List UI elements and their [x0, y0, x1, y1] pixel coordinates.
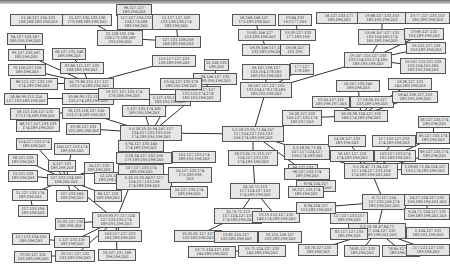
graph-node: 83,117,127,133 189,196,203 [330, 228, 368, 240]
graph-node: 5,5,18,35,71,84 107,117,124,127 156,174,… [284, 144, 330, 160]
graph-node: 19,121,127,133 153,189,196,203 [406, 42, 446, 54]
graph-node: 24,27,124,127,133 156,189,196,201,203 [404, 194, 450, 206]
graph-node: 117,125,127,133 174,189,196,203 [372, 135, 416, 147]
graph-node: 114,127,133,174 189,196,203 [16, 138, 52, 150]
graph-node: 18,78,127,133 189,196,203 [298, 244, 338, 256]
graph-node: 14,16,127,133 189,196,203 [328, 135, 366, 147]
graph-node: 18,113,118,127,130 133,174,189,196,203 [62, 107, 110, 119]
graph-node: 19,54,127,133,178 189,195,196,203 [160, 78, 202, 90]
graph-node: 19,117,127,133,174 178,188,196,203 [98, 88, 150, 100]
graph-node: 5,127,133,174,181 189,195,196,203 [122, 105, 166, 117]
graph-node: 101,127,133,174 189,195,196,203 [172, 151, 216, 163]
graph-node: 16,127,133,174 189,196,203 [288, 186, 324, 198]
graph-node: 19,56,107,127,133 133,154,165,174 185,18… [358, 29, 406, 45]
graph-node: 19,39,127,133 177,189,196 [280, 29, 316, 41]
graph-node: 19,71,124,127,133 143,189,196,203 [238, 245, 286, 257]
graph-node: 22,128,131,136 138,179,188,189 195,196,2… [97, 30, 143, 46]
graph-node: 19,69,127,133 153,189,196,203 [404, 28, 444, 40]
graph-node: 16,107,116,127 133,154,178,185 189,195,1… [242, 64, 290, 80]
graph-node: 103,127,133,174 183,189,196,203 [374, 150, 416, 162]
graph-node: 117,122,127,133 189,196,203 [406, 244, 450, 256]
graph-node: 117,127,130,133 134,174,188 189,196,203 [117, 14, 155, 30]
graph-node: 19,117,127,131 133,189,196,203 [55, 250, 95, 262]
graph-node: 5,94,127,133,140 174,189,196,203 [118, 140, 164, 152]
graph-node: 19,107,115,127,133 133,154,155,174,185 1… [344, 52, 392, 68]
graph-node: 19,125,126,127 133,189,196,203 [258, 231, 302, 243]
graph-node: 11,127,133,174 189,196,203 [12, 189, 48, 201]
graph-node: 127,133,134,135 189,196,203 [12, 233, 50, 245]
graph-node: 11,127,130,133,136 179,188,189,196,203 [62, 14, 112, 26]
graph-node: 5,18,24,127,133,156 179,189,195,196,203 [116, 152, 172, 164]
graph-node: 3,5,18,47,71,84,107 117,124,127,133,156 … [344, 163, 398, 179]
graph-node: 38,127,133,174 189,196,203 [418, 116, 450, 128]
graph-canvas: 11,56,127,130,133 136,188,189,196,20311,… [0, 0, 450, 269]
graph-node: 5,124,127,133 189,191,196,203 [406, 227, 450, 239]
graph-node: 99,127,133,167 189,196,203 [8, 49, 44, 61]
graph-node: 89,127,133,174 189,196,203 [418, 148, 450, 160]
graph-node: 10,127,133,174 189,196,203 [170, 186, 208, 198]
graph-node: 4,127,133 189,196,203 [48, 160, 76, 172]
graph-node: 17,18,30,19,127 133,189,196,203 [350, 96, 394, 108]
graph-node: 127,133,134,189 196,200,203 [47, 174, 85, 186]
graph-node: 5,5,18,19,35,94,107,117 124,127,133,133,… [120, 125, 182, 141]
graph-node: 16,107,127,133 174,189,196,203 [330, 150, 374, 162]
graph-node: 5,5,18,19,35,71,84,107 117,124,127,133,1… [222, 126, 284, 142]
graph-node: 16,107,117,127,133 133,154,178,178,185 1… [240, 82, 292, 98]
graph-node: 127,133,190 189,196,203 [18, 205, 48, 217]
graph-node: 127,131,136,156 188,189,196,203 [155, 36, 201, 48]
graph-node: 16,127,133,177 189,196,203 [316, 12, 362, 24]
graph-node: 96,127,133,174 189,196,203 [284, 168, 330, 180]
graph-node: 19,84,133 153,177,203 [278, 14, 312, 26]
graph-node: 19,36,127,131 133,189,196,203 [66, 123, 101, 135]
graph-node: 86,111,127,133,159 174,189,196,203 [10, 78, 58, 90]
graph-node: 19,68,127,133,153 185,195,196,203 [357, 12, 407, 24]
graph-node: 3,18,19,33,64,97,117 124,127,133,156 174… [116, 174, 172, 190]
graph-node: 12,127,133 189,196,203 [8, 170, 38, 182]
graph-node: 19,71,124,127,133 140,189,196,203 [188, 246, 236, 258]
graph-node: 1,18,65,71,84,124,127 133,174,189,196,20… [401, 163, 449, 175]
graph-node: 19,20,127,131 189,196,197,203 [312, 96, 350, 108]
graph-node: 19,127,131,189 196,196,203 [98, 249, 136, 261]
graph-node: 6,71,117,124 127,133,156,174 189,196,201… [362, 194, 406, 210]
graph-node: 98,127,133 189,196,203 [8, 154, 38, 166]
graph-node: 94,127,133,167 189,195,196,203 [7, 33, 43, 45]
graph-node: 115,117,127,133 136,189,196,203 [152, 55, 196, 67]
graph-node: 177,127 178,189 [290, 63, 314, 75]
graph-node: 18,19,93,97,117,124 127,133,135,174 189,… [92, 212, 140, 228]
graph-node: 78,81,127,133 189,196,203 [344, 245, 380, 257]
graph-node: 80,127,133 189,196,203 [94, 190, 122, 202]
graph-node: 19,77,127,133,153 185,189,196,203 [405, 12, 450, 24]
graph-node: 83,86,111,127,133 168,189,196,203 [60, 62, 104, 74]
graph-node: 48,117,127,133,133 174,189,196,203 [16, 120, 60, 132]
graph-node: 16,58,127 151,195 [280, 44, 310, 56]
graph-node: 11,56,127,130,133 136,188,189,196,203 [10, 14, 66, 26]
graph-node: 18,113,118,127,131 173,174,189,196,203 [10, 108, 60, 120]
graph-node: 16,18,38,124,127,133 166,174,189,196,203 [334, 110, 388, 122]
graph-node: 16,106,106,127 175,189,196,203 [232, 14, 276, 26]
graph-node: 19,81,106,127 153,189,196,203 [238, 29, 282, 41]
graph-node: 79,116,127,133 189,196,203 [8, 64, 46, 76]
graph-node: 10,127,133,174 175,189,196 203 [168, 167, 212, 183]
graph-node: 19,107,112,127,133 133,154,155,185 189,1… [400, 58, 446, 74]
graph-node: 18,36,127,133 145,189,196,203 [388, 78, 432, 90]
graph-node: 18,86,99,111,120 127,133,189,196,203 [4, 93, 48, 105]
graph-node: 19,19,113,127,133 148,174,189,196,203 [252, 211, 300, 223]
graph-node: 103,117,127,133 162,189,196,203 [98, 230, 142, 242]
graph-node: 58,127,131,148 189,196,203 [52, 48, 86, 60]
graph-node: 22,106,133 189,203 [204, 59, 229, 71]
graph-node: 18,107,133,145 189,196,203 [336, 80, 380, 92]
graph-node: 16,42,136,127,133 189,195,196,203 [392, 91, 438, 103]
graph-node: 1,127,133,135 189,196,203 [54, 236, 90, 248]
graph-node: 127,133,160 189,196,203 [56, 190, 88, 202]
graph-node: 85,127,133,174 189,196,203 [416, 132, 450, 144]
graph-node: 18,19,20,71,113,117 124,127,133,135 174,… [228, 150, 278, 166]
graph-node: 16,28,127,133 105,127,133,174 189,197,20… [282, 110, 322, 126]
graph-node: 8,94,124,127 153,189,196,203 [296, 202, 336, 214]
graph-node: 6,24,71,124,127,133 156,189,196,201,203 [404, 208, 450, 220]
graph-node: 20,20,71,113 117,124,127,133 174,189,196… [230, 183, 280, 199]
graph-node: 19,81,125,127 133,189,196,203 [214, 231, 258, 243]
graph-node: 100,127,133,174 189,196,203 [54, 143, 90, 155]
graph-node: 11,117,127,129 133,136,138,174 189,196,2… [152, 14, 200, 30]
graph-node: 19,93,127,131 133,189,196,203 [14, 251, 52, 263]
graph-node: 19,93,127,133 189,196,203 [55, 218, 85, 230]
